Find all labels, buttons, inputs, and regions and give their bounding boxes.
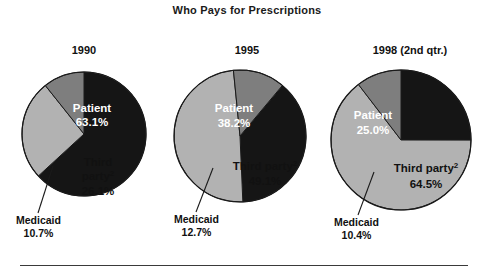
third-party-name: Third bbox=[84, 156, 113, 168]
third-party-slice-value: 26.1% bbox=[82, 185, 115, 197]
third-party-footnote-marker: 2 bbox=[110, 169, 115, 178]
pie-slice-third-party bbox=[174, 70, 243, 202]
pie-slices bbox=[174, 70, 306, 202]
patient-slice-label: Patient bbox=[215, 102, 254, 114]
medicaid-external-label: Medicaid 10.4% bbox=[334, 216, 379, 242]
patient-name: Patient bbox=[73, 102, 112, 114]
third-party-slice-label: Third party2 bbox=[394, 161, 459, 174]
bottom-divider bbox=[20, 265, 468, 266]
medicaid-name: Medicaid bbox=[174, 213, 219, 226]
medicaid-external-label: Medicaid 12.7% bbox=[174, 213, 219, 239]
pie-slice-patient bbox=[401, 70, 471, 140]
medicaid-name: Medicaid bbox=[16, 214, 61, 227]
third-party-value: 64.5% bbox=[410, 178, 443, 190]
third-party-value: 49.1% bbox=[249, 175, 282, 187]
third-party-slice-value: 64.5% bbox=[410, 178, 443, 190]
pie-panel-1990: 1990 Patient 63.1% Third party2 26.1% Me… bbox=[0, 0, 168, 275]
patient-slice-value: 38.2% bbox=[218, 117, 251, 129]
third-party-footnote-marker: 2 bbox=[293, 159, 298, 168]
patient-name: Patient bbox=[354, 109, 393, 121]
third-party-slice-label: Third party2 bbox=[233, 159, 298, 172]
pie-slices bbox=[331, 70, 471, 210]
third-party-value: 26.1% bbox=[82, 185, 115, 197]
medicaid-value: 10.4% bbox=[334, 229, 379, 242]
medicaid-value: 12.7% bbox=[174, 226, 219, 239]
patient-value: 63.1% bbox=[76, 116, 109, 128]
patient-value: 25.0% bbox=[357, 124, 390, 136]
patient-slice-value: 25.0% bbox=[357, 124, 390, 136]
medicaid-name: Medicaid bbox=[334, 216, 379, 229]
patient-value: 38.2% bbox=[218, 117, 251, 129]
third-party-name-2: party bbox=[82, 170, 111, 182]
medicaid-value: 10.7% bbox=[16, 227, 61, 240]
third-party-name: Third party bbox=[394, 162, 455, 174]
third-party-footnote-marker: 2 bbox=[454, 161, 459, 170]
patient-slice-label: Patient bbox=[354, 109, 393, 121]
pie-panel-1995: 1995 Patient 38.2% Third party2 49.1% Me… bbox=[168, 0, 326, 275]
third-party-slice-label-line1: Third bbox=[84, 156, 113, 168]
third-party-slice-value: 49.1% bbox=[249, 175, 282, 187]
third-party-name: Third party bbox=[233, 160, 294, 172]
medicaid-external-label: Medicaid 10.7% bbox=[16, 214, 61, 240]
patient-slice-label: Patient bbox=[73, 102, 112, 114]
patient-slice-value: 63.1% bbox=[76, 116, 109, 128]
pie-panel-1998: 1998 (2nd qtr.) Patient 25.0% Third part… bbox=[326, 0, 494, 275]
patient-name: Patient bbox=[215, 102, 254, 114]
